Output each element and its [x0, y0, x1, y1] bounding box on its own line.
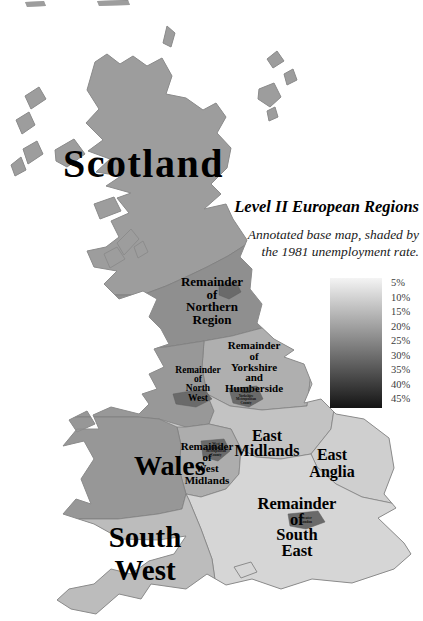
south-east-label: Remainder of South East: [258, 496, 337, 558]
east-anglia-label: East Anglia: [309, 447, 354, 480]
legend-label-45: 45%: [391, 392, 410, 407]
legend-label-20: 20%: [391, 320, 410, 335]
west-midlands-metro-label: West Midlands Metropolitan County: [206, 443, 226, 457]
legend-label-5: 5%: [391, 276, 410, 291]
unemployment-map-figure: Level II European Regions Annotated base…: [0, 0, 423, 621]
south-west-label: South West: [109, 521, 182, 587]
northern-region-label: Remainder of Northern Region: [181, 276, 243, 326]
north-west-label: Remainder of North West: [175, 366, 220, 403]
legend-label-35: 35%: [391, 363, 410, 378]
legend-label-25: 25%: [391, 334, 410, 349]
greater-london-metro-label: Greater London: [300, 517, 312, 524]
title-block: Level II European Regions Annotated base…: [159, 198, 419, 260]
south-yorkshire-metro-label: South Yorkshire Metropolitan County: [236, 391, 256, 405]
legend-label-30: 30%: [391, 349, 410, 364]
map-title: Level II European Regions: [159, 198, 419, 216]
legend-gradient-bar: [330, 278, 382, 408]
legend-label-15: 15%: [391, 305, 410, 320]
legend-labels: 5% 10% 15% 20% 25% 30% 35% 40% 45%: [391, 276, 410, 407]
yorkshire-humberside-label: Remainder of Yorkshire and Humberside: [225, 340, 283, 394]
east-midlands-label: East Midlands: [235, 428, 300, 458]
legend-label-10: 10%: [391, 291, 410, 306]
legend-label-40: 40%: [391, 378, 410, 393]
map-subtitle-line2: the 1981 unemployment rate.: [159, 244, 419, 261]
scotland-label: Scotland: [63, 144, 224, 184]
map-subtitle-line1: Annotated base map, shaded by: [159, 227, 419, 244]
